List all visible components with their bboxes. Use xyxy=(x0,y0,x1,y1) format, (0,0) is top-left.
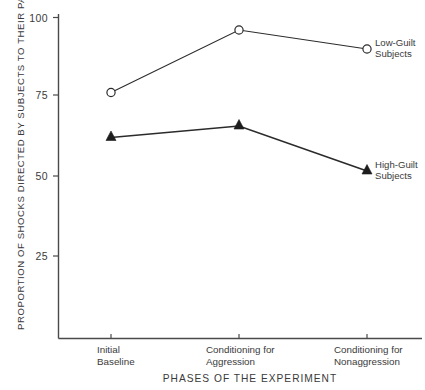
legend-high-guilt: High-Guilt Subjects xyxy=(375,159,418,181)
data-point-low-guilt-2 xyxy=(235,26,243,34)
x-axis-title: PHASES OF THE EXPERIMENT xyxy=(163,373,337,384)
y-axis-ticks xyxy=(53,18,59,257)
series-high-guilt-line xyxy=(111,126,367,171)
x-tick-label-2-line2: Aggression xyxy=(206,356,255,367)
y-axis-label: PROPORTION OF SHOCKS DIRECTED BY SUBJECT… xyxy=(15,0,26,330)
data-point-low-guilt-1 xyxy=(107,88,115,96)
x-tick-label-3-line2: Nonaggression xyxy=(334,356,400,367)
legend-high-guilt-label-line2: Subjects xyxy=(375,170,412,181)
y-tick-label-50: 50 xyxy=(36,170,48,182)
chart-figure: PROPORTION OF SHOCKS DIRECTED BY SUBJECT… xyxy=(0,0,425,390)
series-low-guilt xyxy=(107,26,371,97)
data-point-low-guilt-3 xyxy=(363,45,371,53)
x-tick-label-3-line1: Conditioning for xyxy=(334,344,403,355)
x-tick-label-1-line1: Initial xyxy=(97,344,120,355)
y-tick-label-75: 75 xyxy=(36,89,48,101)
x-axis-tick-labels: Initial Baseline Conditioning for Aggres… xyxy=(97,344,403,367)
x-tick-label-2-line1: Conditioning for xyxy=(206,344,275,355)
data-point-high-guilt-2 xyxy=(234,120,244,130)
legend-high-guilt-label-line1: High-Guilt xyxy=(375,159,418,170)
series-low-guilt-line xyxy=(111,30,367,93)
y-tick-label-25: 25 xyxy=(36,250,48,262)
x-tick-label-1-line2: Baseline xyxy=(97,356,135,367)
y-tick-label-100: 100 xyxy=(29,12,48,24)
legend-low-guilt: Low-Guilt Subjects xyxy=(375,37,416,59)
y-axis-tick-labels: 100 75 50 25 xyxy=(29,12,48,263)
legend-low-guilt-label-line1: Low-Guilt xyxy=(375,37,416,48)
data-point-high-guilt-1 xyxy=(106,131,116,141)
series-high-guilt xyxy=(106,120,372,175)
line-chart-svg: PROPORTION OF SHOCKS DIRECTED BY SUBJECT… xyxy=(0,0,425,390)
legend-low-guilt-label-line2: Subjects xyxy=(375,48,412,59)
